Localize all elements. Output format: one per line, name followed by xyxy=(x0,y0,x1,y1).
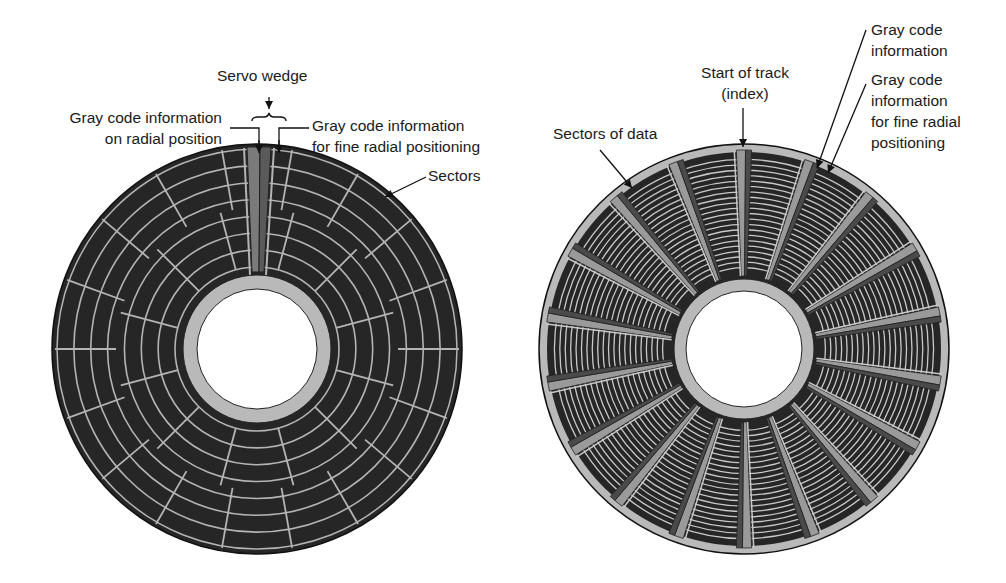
label-gray-fine-line1: Gray code information xyxy=(312,116,465,136)
disk-diagrams xyxy=(0,0,1006,583)
label-gray-info-line1: Gray code xyxy=(871,20,943,40)
label-sectors: Sectors xyxy=(428,166,481,186)
label-gray-fine2-line1: Gray code xyxy=(871,70,943,90)
label-gray-fine2-line4: positioning xyxy=(871,133,945,153)
label-servo-wedge: Servo wedge xyxy=(217,66,307,86)
label-sectors-of-data: Sectors of data xyxy=(553,124,657,144)
gray-fine-arrow-right xyxy=(828,84,866,173)
label-gray-info-line2: information xyxy=(871,41,948,61)
servo-wedge-arrow-head xyxy=(265,101,273,109)
gray-info-arrow xyxy=(817,30,866,168)
label-gray-fine2-line3: for fine radial xyxy=(871,112,961,132)
left-disc-spindle-hole xyxy=(197,289,317,409)
label-start-of-track-line2: (index) xyxy=(690,84,800,104)
label-gray-fine2-line2: information xyxy=(871,91,948,111)
label-start-of-track-line1: Start of track xyxy=(690,63,800,83)
label-gray-radial-line1: Gray code information xyxy=(40,108,222,128)
servo-wedge-brace xyxy=(252,113,286,121)
right-disc-spindle-hole xyxy=(686,291,802,407)
label-gray-fine-line2: for fine radial positioning xyxy=(312,137,480,157)
label-gray-radial-line2: on radial position xyxy=(40,129,222,149)
